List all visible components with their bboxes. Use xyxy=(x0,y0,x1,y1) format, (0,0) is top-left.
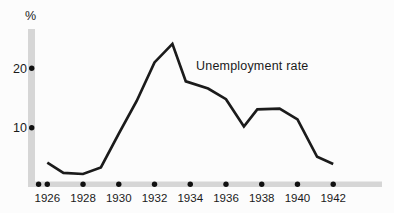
x-tick-dot xyxy=(259,182,264,187)
x-tick-label: 1936 xyxy=(213,192,239,204)
y-tick-label: 10 xyxy=(13,121,27,135)
unemployment-rate-chart: 1020192619281930193219341936193819401942… xyxy=(0,0,394,213)
x-tick-dot xyxy=(223,182,228,187)
origin-dot xyxy=(36,182,41,187)
x-tick-dot xyxy=(45,182,50,187)
x-tick-dot xyxy=(80,182,85,187)
y-tick-dot xyxy=(29,125,34,130)
x-tick-label: 1940 xyxy=(285,192,311,204)
x-tick-label: 1930 xyxy=(106,192,132,204)
chart-canvas: 1020192619281930193219341936193819401942 xyxy=(0,0,394,213)
x-tick-dot xyxy=(116,182,121,187)
y-tick-dot xyxy=(29,66,34,71)
x-tick-label: 1926 xyxy=(35,192,61,204)
x-tick-label: 1928 xyxy=(70,192,96,204)
x-tick-dot xyxy=(295,182,300,187)
x-tick-dot xyxy=(188,182,193,187)
series-annotation-label: Unemployment rate xyxy=(196,59,308,73)
x-tick-label: 1942 xyxy=(320,192,346,204)
y-axis-unit-label: % xyxy=(25,9,36,23)
x-tick-dot xyxy=(331,182,336,187)
x-tick-dot xyxy=(152,182,157,187)
x-tick-label: 1932 xyxy=(142,192,168,204)
y-axis-bar xyxy=(28,29,35,187)
x-tick-label: 1938 xyxy=(249,192,275,204)
y-tick-label: 20 xyxy=(13,62,27,76)
x-tick-label: 1934 xyxy=(177,192,203,204)
